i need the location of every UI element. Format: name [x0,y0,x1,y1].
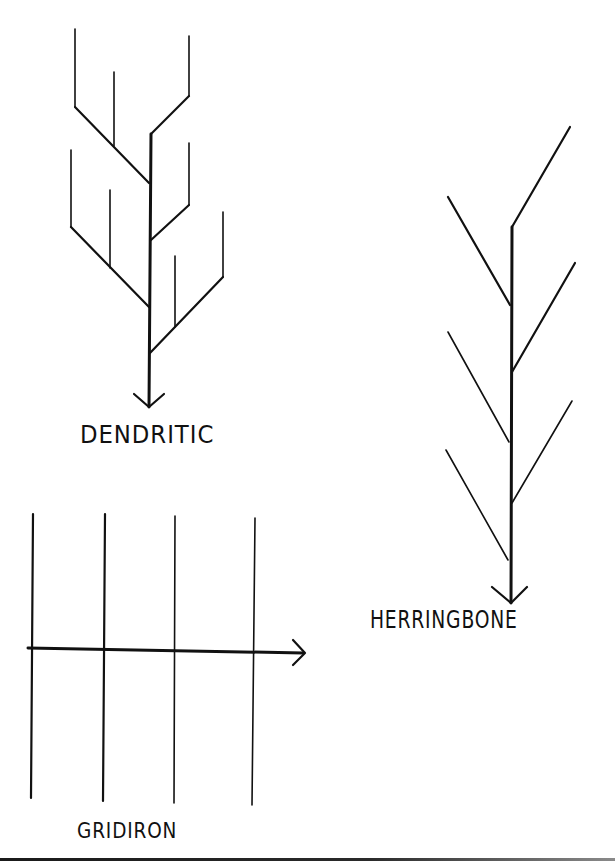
herringbone-arrow-icon [492,587,527,603]
herringbone-branch-left [448,197,510,305]
dendritic-branch-lower-right [150,277,223,353]
dendritic-diagram [71,29,223,407]
dendritic-trunk [149,134,151,407]
gridiron-vertical-line [252,518,255,805]
dendritic-branch-upper-left [75,107,149,183]
dendritic-branch-middle-right [151,205,189,240]
gridiron-vertical-line [103,514,105,801]
herringbone-trunk [511,227,512,603]
gridiron-diagram [28,514,305,805]
herringbone-branch-right [512,263,575,372]
dendritic-branch-upper-right [151,96,189,134]
gridiron-vertical-line [174,516,175,803]
gridiron-label: GRIDIRON [77,818,177,843]
herringbone-branch-left [446,450,508,560]
herringbone-branch-right [512,127,570,227]
dendritic-label: DENDRITIC [80,421,214,449]
herringbone-branch-right [512,401,572,503]
herringbone-branch-left [448,332,509,442]
herringbone-diagram [446,127,575,603]
herringbone-label: HERRINGBONE [370,606,518,634]
gridiron-horizontal-line [28,648,303,653]
gridiron-vertical-line [31,514,33,798]
bottom-divider [0,858,615,861]
